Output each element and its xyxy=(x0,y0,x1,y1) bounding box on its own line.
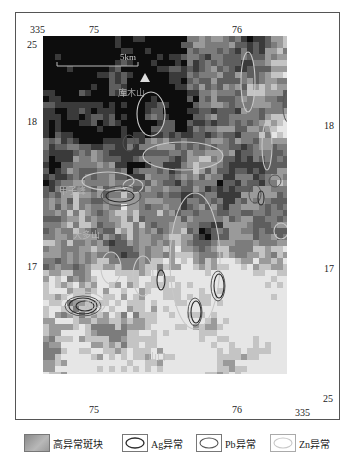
axis-label-left: 25 xyxy=(27,40,37,50)
pb-anomaly-contour xyxy=(283,90,287,122)
place-name-label: 双山 xyxy=(85,298,103,311)
axis-label-top: 76 xyxy=(232,25,242,35)
axis-label-right: 17 xyxy=(324,264,334,274)
place-name-label: 库木山 xyxy=(118,86,145,99)
ag-ellipse-icon xyxy=(122,434,148,452)
pb-anomaly-contour xyxy=(123,135,135,151)
ag-anomaly-contour xyxy=(106,190,134,202)
axis-label-bottom: 335 xyxy=(295,408,310,418)
zn-anomaly-contour xyxy=(143,142,223,170)
legend-item-ag: Ag异常 xyxy=(122,432,183,454)
legend-label: Pb异常 xyxy=(225,436,256,451)
legend-item-patch: 高异常斑块 xyxy=(24,432,103,454)
zn-anomaly-contour xyxy=(262,122,272,170)
ag-anomaly-contour xyxy=(157,270,165,290)
legend-label: 高异常斑块 xyxy=(53,436,103,451)
legend: 高异常斑块 Ag异常 Pb异常 Zn异常 xyxy=(0,432,353,454)
triangle-marker-icon xyxy=(140,73,150,82)
axis-label-bottom: 75 xyxy=(89,405,99,415)
axis-label-bottom: 76 xyxy=(232,405,242,415)
pb-anomaly-contour xyxy=(269,175,281,187)
axis-label-left: 17 xyxy=(27,262,37,272)
anomaly-contours: 5km xyxy=(43,36,287,374)
zn-ellipse-icon xyxy=(270,434,296,452)
legend-label: Zn异常 xyxy=(299,436,330,451)
axis-label-right: 25 xyxy=(323,394,333,404)
pb-anomaly-contour xyxy=(188,298,202,326)
axis-label-top: 75 xyxy=(89,25,99,35)
patch-swatch-icon xyxy=(24,434,50,452)
axis-label-top: 335 xyxy=(30,25,45,35)
zn-anomaly-contour xyxy=(170,193,220,329)
place-name-label: 山口 xyxy=(148,350,166,363)
anomaly-map: 5km 库木山甲子峰大多山双山山口 xyxy=(43,36,287,374)
zn-anomaly-contour xyxy=(133,256,153,296)
zn-anomaly-contour xyxy=(274,223,287,239)
place-name-label: 大多山 xyxy=(73,228,100,241)
axis-label-left: 18 xyxy=(27,117,37,127)
ag-anomaly-contour xyxy=(191,301,201,323)
scale-bar xyxy=(57,62,138,66)
pb-anomaly-contour xyxy=(249,185,261,203)
zn-anomaly-contour xyxy=(241,52,255,112)
legend-item-zn: Zn异常 xyxy=(270,432,330,454)
legend-label: Ag异常 xyxy=(151,436,183,451)
zn-anomaly-contour xyxy=(101,252,121,284)
pb-ellipse-icon xyxy=(196,434,222,452)
axis-label-right: 18 xyxy=(324,121,334,131)
legend-item-pb: Pb异常 xyxy=(196,432,256,454)
place-name-label: 甲子峰 xyxy=(59,184,86,197)
scale-bar-label: 5km xyxy=(120,52,136,62)
